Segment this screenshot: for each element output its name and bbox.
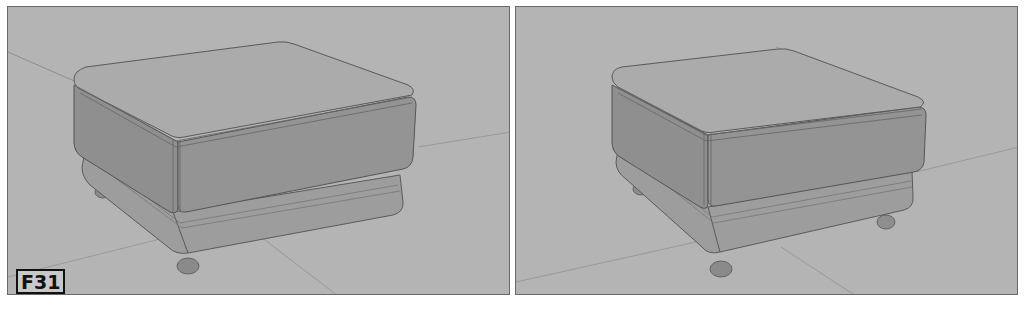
ottoman-render-left (8, 7, 510, 295)
ottoman-render-right (516, 7, 1018, 295)
viewport-panel-right (515, 6, 1018, 295)
figure-label: F31 (16, 269, 65, 294)
viewport-panel-left: F31 (7, 6, 510, 295)
